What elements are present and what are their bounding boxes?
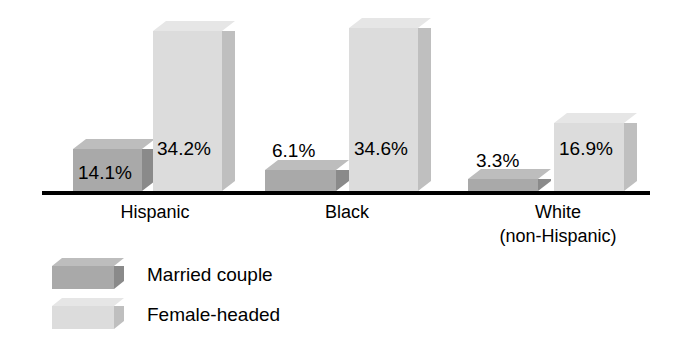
swatch-side-face bbox=[114, 266, 124, 289]
swatch-side-face bbox=[114, 306, 124, 329]
swatch-top-face bbox=[52, 258, 124, 266]
swatch-front-face bbox=[52, 306, 114, 329]
category-label-line2: (non-Hispanic) bbox=[470, 224, 646, 248]
category-label-line1: Hispanic bbox=[95, 200, 215, 224]
swatch-front-face bbox=[52, 266, 114, 289]
legend-swatch-female-headed bbox=[52, 306, 114, 329]
value-label-black-married-couple: 6.1% bbox=[272, 140, 315, 162]
value-label-hispanic-married-couple: 14.1% bbox=[78, 162, 132, 184]
plot-area: 14.1% 34.2% 6.1% 34.6% 3.3% bbox=[0, 0, 678, 200]
bar-black-female-headed bbox=[349, 28, 418, 191]
bar-side-face bbox=[538, 179, 551, 191]
swatch-top-face bbox=[52, 298, 124, 306]
bar-top-face bbox=[73, 139, 155, 149]
bar-front-face bbox=[153, 31, 222, 191]
category-label-hispanic: Hispanic bbox=[95, 200, 215, 224]
bar-front-face bbox=[265, 170, 336, 191]
value-label-hispanic-female-headed: 34.2% bbox=[157, 138, 211, 160]
bar-hispanic-female-headed bbox=[153, 31, 222, 191]
bar-chart: 14.1% 34.2% 6.1% 34.6% 3.3% bbox=[0, 0, 678, 350]
bar-top-face bbox=[153, 21, 235, 31]
legend-label-married-couple: Married couple bbox=[147, 264, 273, 286]
value-label-black-female-headed: 34.6% bbox=[354, 138, 408, 160]
bar-black-married-couple bbox=[265, 170, 336, 191]
bar-side-face bbox=[222, 31, 235, 191]
category-label-white-non-hispanic: White (non-Hispanic) bbox=[470, 200, 646, 248]
category-label-line1: Black bbox=[292, 200, 402, 224]
legend-swatch-married-couple bbox=[52, 266, 114, 289]
value-label-white-female-headed: 16.9% bbox=[559, 138, 613, 160]
bar-side-face bbox=[624, 123, 637, 191]
category-label-line1: White bbox=[470, 200, 646, 224]
bar-side-face bbox=[418, 28, 431, 191]
bar-front-face bbox=[468, 179, 538, 191]
x-axis-line bbox=[42, 191, 650, 195]
bar-front-face bbox=[349, 28, 418, 191]
bar-top-face bbox=[349, 18, 431, 28]
legend-label-female-headed: Female-headed bbox=[147, 304, 280, 326]
value-label-white-married-couple: 3.3% bbox=[476, 150, 519, 172]
bar-top-face bbox=[554, 113, 637, 123]
category-label-black: Black bbox=[292, 200, 402, 224]
bar-white-married-couple bbox=[468, 179, 538, 191]
bar-side-face bbox=[336, 170, 349, 191]
